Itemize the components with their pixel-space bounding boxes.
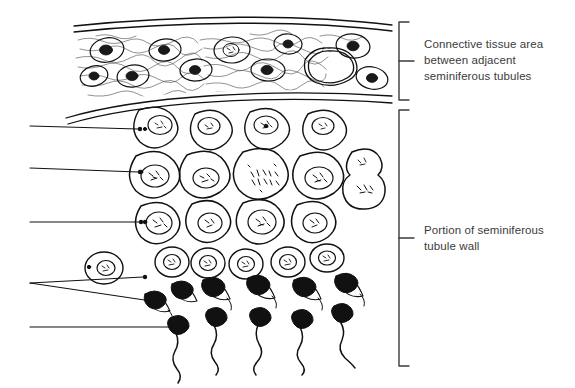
- spermatid: [310, 244, 344, 272]
- elongating-spermatid: [144, 291, 172, 321]
- capillary-lumen: [305, 48, 358, 85]
- spermatozoon: [250, 307, 272, 375]
- primary-spermatocyte: [293, 152, 344, 199]
- spermatozoon: [332, 303, 356, 368]
- secondary-spermatocyte: [236, 200, 284, 244]
- tunica-upper-boundary: [74, 17, 392, 32]
- secondary-spermatocyte: [186, 201, 231, 243]
- spermatozoon: [292, 309, 314, 375]
- fibroblast: [334, 32, 371, 60]
- spermatozoa-row: [168, 303, 356, 383]
- spermatozoon: [206, 307, 228, 375]
- spermatid: [155, 247, 189, 277]
- bracket-group: [399, 22, 414, 366]
- elongating-spermatid: [171, 281, 197, 302]
- fibroblast: [179, 58, 212, 82]
- elongating-spermatid: [335, 273, 365, 306]
- spermatogonium: [303, 110, 347, 150]
- leader-spermatogonium: [30, 126, 138, 129]
- dividing-cell: [343, 149, 385, 209]
- histology-figure: Connective tissue area between adjacent …: [0, 0, 575, 388]
- leader-primary-spermatocyte: [30, 168, 138, 172]
- seminiferous-tubule-label: Portion of seminiferous tubule wall: [424, 222, 544, 254]
- fibroblast: [354, 64, 390, 92]
- fibroblast: [88, 35, 126, 66]
- spermatogonium: [245, 108, 290, 149]
- secondary-spermatocyte: [292, 201, 336, 242]
- tunica-lower-boundary: [66, 93, 392, 124]
- fibroblast: [148, 37, 182, 62]
- spermatid: [229, 249, 263, 279]
- elongating-spermatid: [247, 275, 277, 308]
- spermatid: [191, 248, 225, 278]
- leader-spermatid: [30, 277, 143, 283]
- primary-spermatocyte: [130, 152, 180, 198]
- primary-spermatocyte: [233, 148, 288, 199]
- leader-elongating-spermatid: [30, 283, 158, 302]
- fibroblast: [213, 36, 250, 64]
- secondary-spermatocyte-row: [136, 200, 336, 244]
- fibroblast: [251, 58, 286, 81]
- spermatogonia-row: [134, 107, 347, 150]
- fibroblast: [116, 63, 151, 89]
- metaphase-chromosome-plate: [248, 164, 279, 192]
- spermatid: [271, 247, 305, 277]
- spermatogonium: [190, 110, 232, 149]
- primary-spermatocyte: [179, 151, 230, 198]
- spermatozoon: [168, 315, 190, 383]
- connective-tissue-label: Connective tissue area between adjacent …: [424, 36, 543, 84]
- primary-spermatocyte-row: [130, 148, 344, 199]
- elongating-spermatid: [202, 277, 232, 310]
- elongating-spermatid: [293, 277, 323, 310]
